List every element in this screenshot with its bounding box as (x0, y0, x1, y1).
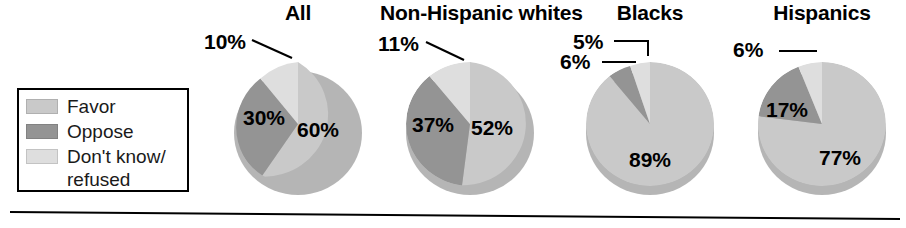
callout-leader-blacks-oppose (600, 56, 640, 74)
legend-item-oppose: Oppose (26, 120, 183, 145)
slice-label-favor: 77% (819, 146, 861, 170)
legend-label-dont-know: Don't know/ refused (67, 145, 166, 191)
pie-graphic-hispanics (758, 62, 886, 194)
callout-label-dont-know-nhwhites: 11% (378, 32, 419, 56)
pie-title-nhwhites: Non-Hispanic whites (380, 1, 560, 25)
pie-title-hispanics: Hispanics (732, 1, 906, 25)
pie-title-blacks: Blacks (560, 1, 740, 25)
callout-label-dont-know-hispanics: 6% (733, 38, 763, 62)
pie-graphic-blacks (586, 62, 714, 194)
legend-label-favor: Favor (67, 95, 116, 118)
slice-label-oppose: 17% (766, 98, 808, 122)
dont-know-swatch (26, 149, 58, 164)
slice-label-oppose: 30% (243, 106, 285, 130)
legend-item-dont-know: Don't know/ refused (26, 145, 183, 191)
callout-label-dont-know-all: 10% (204, 30, 246, 54)
slice-label-oppose: 37% (412, 113, 454, 137)
legend-item-favor: Favor (26, 95, 183, 120)
callout-leader-blacks-dont-know (612, 36, 654, 58)
slice-label-favor: 52% (471, 116, 513, 140)
oppose-swatch (26, 124, 58, 139)
callout-leader-all (250, 36, 296, 62)
slice-label-favor: 89% (629, 148, 671, 172)
pie-chart-hispanics: Hispanics 77% 17% (732, 0, 906, 212)
legend: Favor Oppose Don't know/ refused (17, 88, 189, 192)
slice-label-favor: 60% (297, 118, 339, 142)
pie-title-all: All (208, 1, 388, 25)
bottom-divider (10, 210, 900, 224)
callout-leader-nhwhites (424, 38, 468, 64)
callout-label-oppose-blacks: 6% (560, 50, 590, 74)
legend-label-oppose: Oppose (67, 120, 134, 143)
callout-leader-hispanics (777, 44, 821, 62)
pie-chart-figure: Favor Oppose Don't know/ refused All (0, 0, 906, 228)
legend-list: Favor Oppose Don't know/ refused (26, 95, 183, 191)
favor-swatch (26, 99, 58, 114)
